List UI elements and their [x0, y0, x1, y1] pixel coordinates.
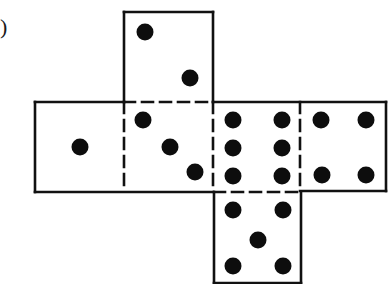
- pip-dot: [274, 140, 291, 157]
- pip-dot: [250, 232, 267, 249]
- pip-dot: [274, 112, 291, 129]
- top-face: [137, 24, 199, 87]
- pip-dot: [313, 112, 330, 129]
- pip-dot: [274, 168, 291, 185]
- left-face: [72, 139, 89, 156]
- dice-faces: [72, 24, 375, 275]
- pip-dot: [72, 139, 89, 156]
- pip-dot: [225, 112, 242, 129]
- pip-dot: [225, 168, 242, 185]
- pip-dot: [137, 24, 154, 41]
- pip-dot: [182, 70, 199, 87]
- pip-dot: [162, 139, 179, 156]
- bottom-face: [225, 202, 292, 275]
- six-face: [225, 112, 291, 185]
- pip-dot: [275, 202, 292, 219]
- pip-dot: [358, 167, 375, 184]
- pip-dot: [225, 202, 242, 219]
- pip-dot: [135, 112, 152, 129]
- pip-dot: [314, 167, 331, 184]
- pip-dot: [187, 164, 204, 181]
- pip-dot: [358, 112, 375, 129]
- center-face: [135, 112, 204, 181]
- pip-dot: [275, 258, 292, 275]
- right-face: [313, 112, 375, 184]
- pip-dot: [225, 258, 242, 275]
- pip-dot: [225, 140, 242, 157]
- dice-net-diagram: [0, 0, 390, 284]
